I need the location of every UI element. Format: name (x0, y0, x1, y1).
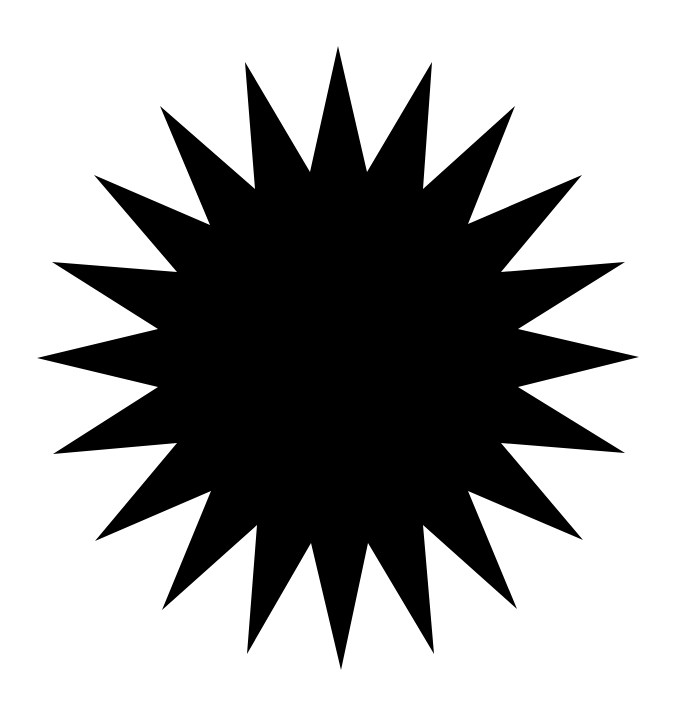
starburst-icon (0, 0, 678, 719)
starburst-shape (37, 46, 639, 670)
canvas (0, 0, 678, 719)
